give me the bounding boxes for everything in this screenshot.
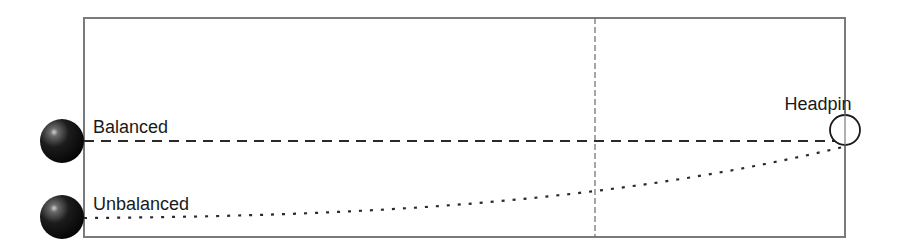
balanced-label: Balanced <box>93 117 168 137</box>
trajectory-diagram: Headpin Balanced Unbalanced <box>0 0 897 250</box>
unbalanced-label: Unbalanced <box>93 194 189 214</box>
headpin-label: Headpin <box>784 94 851 114</box>
unbalanced-trajectory <box>84 147 843 218</box>
unbalanced-bowling-ball-icon <box>40 195 84 239</box>
balanced-bowling-ball-icon <box>40 119 84 163</box>
lane-outline <box>84 18 845 237</box>
